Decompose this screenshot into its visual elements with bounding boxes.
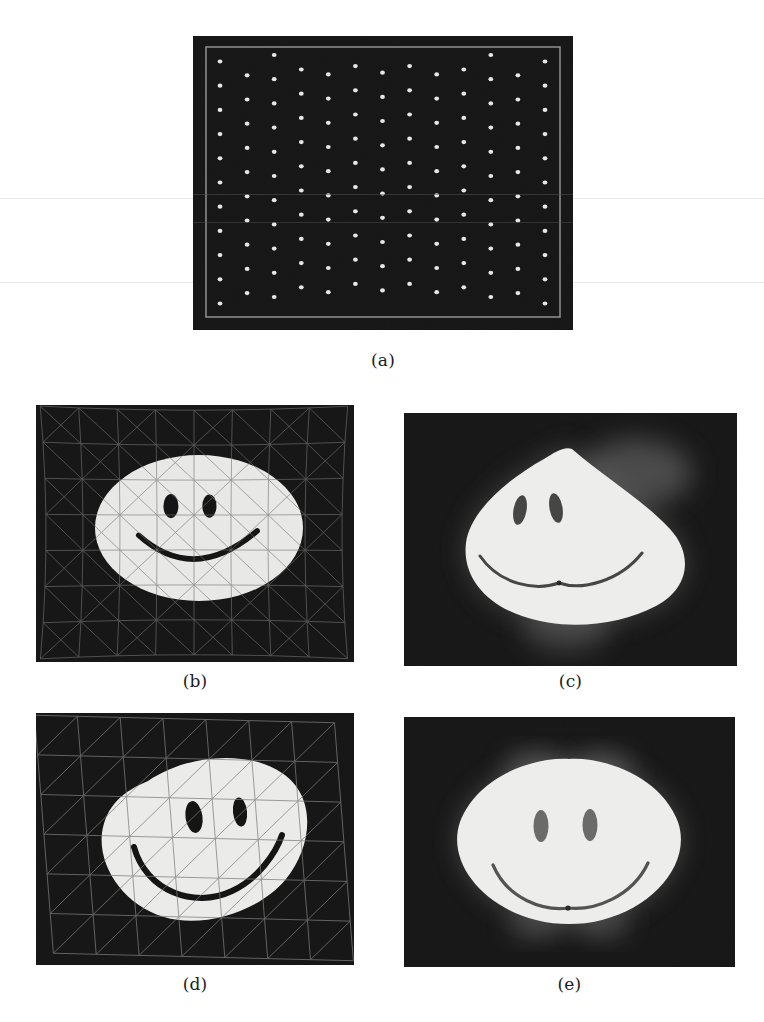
caption-e: (e): [404, 974, 735, 994]
panel-d-deformed-smiley-mesh: [36, 713, 354, 965]
caption-c: (c): [404, 671, 737, 691]
caption-a: (a): [193, 350, 573, 370]
panel-a-dot-grid: [193, 36, 573, 330]
panel-e-restored-smiley: [404, 717, 735, 967]
panel-b-canvas: [36, 405, 354, 662]
panel-c-warped-smiley: [404, 413, 737, 666]
caption-b: (b): [36, 671, 354, 691]
panel-b-smiley-mesh: [36, 405, 354, 662]
caption-d: (d): [36, 974, 354, 994]
panel-c-canvas: [404, 413, 737, 666]
figure-sheet: (a) (b) (c) (d) (e): [0, 0, 764, 1022]
panel-a-canvas: [193, 36, 573, 330]
panel-d-canvas: [36, 713, 354, 965]
panel-e-canvas: [404, 717, 735, 967]
